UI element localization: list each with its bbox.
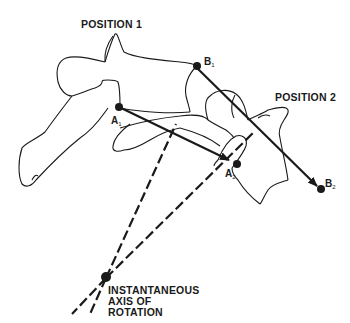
- bisector-extension-a: [72, 278, 106, 314]
- point-b1-marker: [193, 62, 201, 70]
- bisector-line-b: [106, 132, 254, 278]
- rotation-diagram: POSITION 1 POSITION 2 INSTANTANEOUS AXIS…: [0, 0, 350, 323]
- bisector-extension-b: [90, 278, 106, 314]
- vertebra-position-1-outline: [19, 34, 197, 186]
- bisector-line-a: [106, 124, 176, 278]
- diagram-canvas: [0, 0, 350, 323]
- vector-a1-to-a2: [119, 107, 229, 160]
- position-2-label: POSITION 2: [275, 92, 336, 103]
- vector-b1-to-b2: [196, 67, 317, 186]
- point-b1-label: B1: [204, 57, 215, 70]
- point-a1-label: A1: [111, 116, 122, 129]
- axis-of-rotation-marker: [101, 272, 111, 282]
- point-a2-label: A2: [225, 169, 236, 182]
- point-a1-marker: [115, 103, 123, 111]
- point-b2-marker: [317, 185, 325, 193]
- axis-label-line-3: ROTATION: [108, 307, 199, 318]
- point-a2-marker: [233, 160, 241, 168]
- position-1-label: POSITION 1: [81, 19, 142, 30]
- axis-of-rotation-label: INSTANTANEOUS AXIS OF ROTATION: [108, 285, 199, 318]
- point-b2-label: B2: [325, 179, 336, 192]
